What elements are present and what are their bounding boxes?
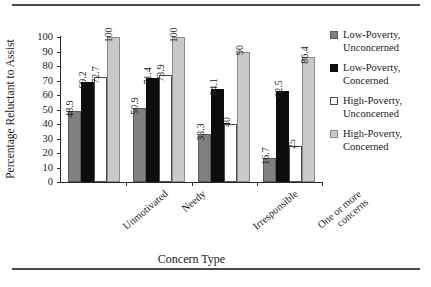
bar[interactable]: 72.7 bbox=[94, 77, 107, 182]
bar-value-label: 100 bbox=[103, 28, 114, 43]
bar[interactable]: 100 bbox=[107, 37, 120, 182]
legend-swatch bbox=[330, 31, 338, 39]
x-tick-mark bbox=[192, 182, 193, 186]
bar[interactable]: 90 bbox=[237, 52, 250, 183]
bar-value-label: 62.5 bbox=[273, 81, 284, 99]
legend-label: Low-Poverty,Concerned bbox=[343, 62, 428, 87]
y-tick-label: 50 bbox=[27, 103, 53, 116]
bar[interactable]: 33.3 bbox=[198, 134, 211, 182]
x-category-label: Irresponsible bbox=[251, 188, 300, 232]
bar[interactable]: 40 bbox=[224, 124, 237, 182]
bar-value-label: 50.9 bbox=[129, 97, 140, 115]
bar-value-label: 33.3 bbox=[195, 123, 206, 141]
legend-label-line: Unconcerned bbox=[343, 108, 428, 121]
y-tick-label: 30 bbox=[27, 132, 53, 145]
legend-swatch bbox=[330, 97, 338, 105]
legend-label-line: Unconcerned bbox=[343, 42, 428, 55]
bar-group: 48.969.272.7100 bbox=[68, 37, 120, 182]
bar[interactable]: 50.9 bbox=[133, 108, 146, 182]
legend-label-line: High-Poverty, bbox=[343, 95, 428, 108]
legend: Low-Poverty,UnconcernedLow-Poverty,Conce… bbox=[330, 29, 428, 161]
bar[interactable]: 64.1 bbox=[211, 89, 224, 182]
figure: Percentage Reluctant to Assist 010203040… bbox=[0, 0, 431, 287]
bottom-rule bbox=[12, 268, 420, 270]
bar[interactable]: 16.7 bbox=[263, 158, 276, 182]
legend-item[interactable]: High-Poverty,Concerned bbox=[330, 128, 428, 153]
y-tick-label: 0 bbox=[27, 175, 53, 188]
legend-item[interactable]: Low-Poverty,Unconcerned bbox=[330, 29, 428, 54]
legend-label-line: Concerned bbox=[343, 141, 428, 154]
bar-value-label: 100 bbox=[168, 28, 179, 43]
legend-label-line: Low-Poverty, bbox=[343, 62, 428, 75]
bar[interactable]: 69.2 bbox=[81, 82, 94, 182]
bar-group: 33.364.14090 bbox=[198, 37, 250, 182]
legend-label: Low-Poverty,Unconcerned bbox=[343, 29, 428, 54]
bar-value-label: 48.9 bbox=[64, 100, 75, 118]
bar-value-label: 90 bbox=[234, 45, 245, 55]
legend-label-line: Concerned bbox=[343, 75, 428, 88]
x-axis-title: Concern Type bbox=[61, 252, 322, 267]
bar-group: 50.971.473.9100 bbox=[133, 37, 185, 182]
x-tick-mark bbox=[257, 182, 258, 186]
bar-value-label: 72.7 bbox=[90, 66, 101, 84]
legend-swatch bbox=[330, 64, 338, 72]
y-tick-label: 70 bbox=[27, 74, 53, 87]
x-category-label-line: Needy bbox=[179, 188, 207, 214]
y-axis-title: Percentage Reluctant to Assist bbox=[4, 33, 16, 185]
legend-label-line: High-Poverty, bbox=[343, 128, 428, 141]
y-tick-label: 20 bbox=[27, 146, 53, 159]
x-category-label: Unmotivated bbox=[120, 188, 169, 232]
bar-value-label: 73.9 bbox=[155, 64, 166, 82]
legend-swatch bbox=[330, 130, 338, 138]
y-tick-label: 80 bbox=[27, 59, 53, 72]
legend-label: High-Poverty,Unconcerned bbox=[343, 95, 428, 120]
y-tick-mark bbox=[57, 182, 61, 183]
x-category-label: One or moreconcerns bbox=[316, 188, 371, 239]
bar-value-label: 40 bbox=[221, 117, 232, 127]
bar-group: 16.762.52586.4 bbox=[263, 37, 315, 182]
legend-item[interactable]: Low-Poverty,Concerned bbox=[330, 62, 428, 87]
plot-area: 48.969.272.710050.971.473.910033.364.140… bbox=[61, 37, 322, 182]
bar[interactable]: 86.4 bbox=[302, 57, 315, 182]
x-tick-mark bbox=[126, 182, 127, 186]
bar-value-label: 69.2 bbox=[77, 71, 88, 89]
bar-value-label: 71.4 bbox=[142, 68, 153, 86]
legend-label: High-Poverty,Concerned bbox=[343, 128, 428, 153]
y-tick-label: 90 bbox=[27, 45, 53, 58]
bar-value-label: 25 bbox=[286, 139, 297, 149]
x-category-label-line: Irresponsible bbox=[251, 188, 300, 232]
x-category-label-line: Unmotivated bbox=[120, 188, 169, 232]
bar[interactable]: 48.9 bbox=[68, 111, 81, 182]
x-category-label: Needy bbox=[179, 188, 207, 214]
bar-value-label: 64.1 bbox=[208, 78, 219, 96]
bar[interactable]: 73.9 bbox=[159, 75, 172, 182]
y-tick-label: 100 bbox=[27, 30, 53, 43]
bar-value-label: 86.4 bbox=[299, 46, 310, 64]
bar[interactable]: 100 bbox=[172, 37, 185, 182]
legend-label-line: Low-Poverty, bbox=[343, 29, 428, 42]
y-tick-label: 40 bbox=[27, 117, 53, 130]
y-tick-label: 60 bbox=[27, 88, 53, 101]
top-rule bbox=[12, 4, 420, 6]
bar[interactable]: 71.4 bbox=[146, 78, 159, 182]
bar-value-label: 16.7 bbox=[260, 147, 271, 165]
legend-item[interactable]: High-Poverty,Unconcerned bbox=[330, 95, 428, 120]
y-tick-label: 10 bbox=[27, 161, 53, 174]
bar[interactable]: 25 bbox=[289, 146, 302, 182]
bar[interactable]: 62.5 bbox=[276, 91, 289, 182]
x-tick-mark bbox=[322, 182, 323, 186]
